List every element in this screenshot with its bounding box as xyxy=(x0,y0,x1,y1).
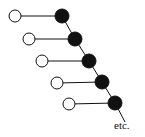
filled-node xyxy=(95,75,109,89)
filled-node xyxy=(108,96,122,110)
open-node xyxy=(51,77,63,89)
open-node xyxy=(63,98,75,110)
open-node xyxy=(9,10,21,22)
open-node xyxy=(36,55,48,67)
chain-diagram: etc. xyxy=(0,0,145,137)
filled-node xyxy=(55,9,69,23)
chain-graphic xyxy=(0,0,145,137)
etc-label: etc. xyxy=(114,119,130,131)
open-node xyxy=(23,33,35,45)
filled-node xyxy=(82,54,96,68)
filled-node xyxy=(68,32,82,46)
